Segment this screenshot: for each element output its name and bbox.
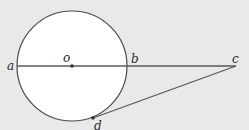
- label-c: c: [232, 52, 239, 66]
- label-o: o: [63, 51, 70, 65]
- point-o: [70, 64, 74, 68]
- geometry-diagram: a o b c d: [0, 0, 249, 130]
- label-a: a: [7, 59, 14, 73]
- label-d: d: [94, 119, 102, 130]
- label-b: b: [131, 52, 139, 66]
